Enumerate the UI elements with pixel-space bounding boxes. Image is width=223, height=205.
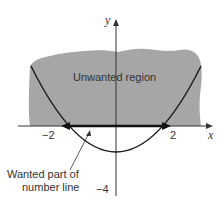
y-axis-label: y — [104, 13, 111, 27]
unwanted-region-shape — [29, 49, 202, 126]
unwanted-region-label: Unwanted region — [73, 71, 156, 83]
annotation-pointer — [70, 133, 89, 170]
x-axis-label: x — [207, 128, 214, 142]
annotation-line-1: Wanted part of — [7, 168, 80, 180]
tick-label-neg4: −4 — [96, 183, 109, 195]
annotation-line-2: number line — [22, 181, 79, 193]
y-axis-arrow-icon — [113, 19, 119, 26]
diagram-canvas: Unwanted region −2 2 −4 x y Wanted part … — [0, 0, 223, 205]
annotation-arrow-icon — [86, 130, 91, 136]
tick-label-pos2: 2 — [170, 129, 176, 141]
tick-label-neg2: −2 — [42, 129, 55, 141]
